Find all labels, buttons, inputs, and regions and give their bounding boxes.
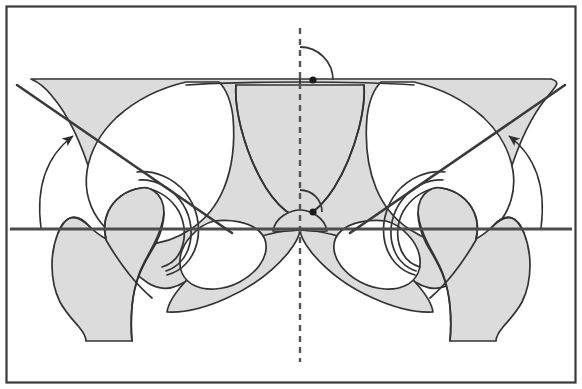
figure-root (0, 0, 582, 389)
upper-vertex-dot (309, 76, 316, 83)
figure-frame (0, 0, 582, 389)
lower-vertex-dot (309, 208, 316, 215)
pelvis-diagram-canvas (0, 0, 582, 389)
